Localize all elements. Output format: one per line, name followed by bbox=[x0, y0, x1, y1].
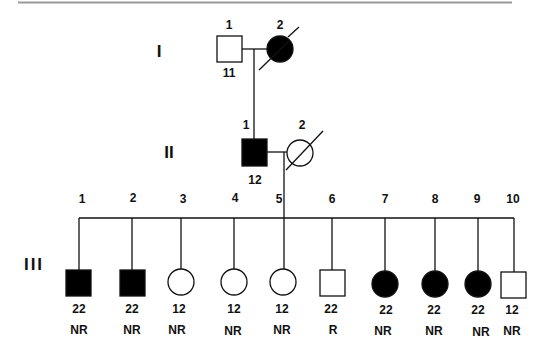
member-id-III-9: 9 bbox=[474, 192, 481, 206]
generation-label-II: II bbox=[164, 143, 173, 162]
female-symbol-III-8 bbox=[422, 271, 448, 297]
member-id-III-3: 3 bbox=[180, 192, 187, 206]
member-status-III-6: R bbox=[329, 323, 338, 337]
female-symbol-III-4 bbox=[221, 269, 247, 295]
member-value-III-9: 22 bbox=[471, 303, 485, 317]
member-value-III-6: 22 bbox=[324, 302, 338, 316]
member-id-III-8: 8 bbox=[432, 192, 439, 206]
male-symbol-III-6 bbox=[320, 270, 345, 296]
member-value-III-1: 22 bbox=[72, 302, 86, 316]
member-status-III-7: NR bbox=[374, 324, 392, 338]
male-symbol-III-1 bbox=[66, 270, 91, 296]
member-id-I-1: 1 bbox=[226, 18, 233, 32]
member-status-III-10: NR bbox=[503, 324, 521, 338]
member-value-III-10: 12 bbox=[505, 303, 519, 317]
gen-I: 1 11 2 bbox=[217, 18, 299, 139]
male-symbol-III-2 bbox=[120, 270, 145, 296]
member-status-III-8: NR bbox=[425, 324, 443, 338]
male-symbol-I-1 bbox=[217, 36, 242, 62]
gen-III: 1 22 NR 2 22 NR 3 12 NR 4 12 NR 5 12 NR … bbox=[66, 191, 526, 339]
member-value-III-8: 22 bbox=[427, 303, 441, 317]
member-id-III-7: 7 bbox=[382, 192, 389, 206]
deceased-slash-I-2-top bbox=[288, 27, 299, 37]
member-status-III-3: NR bbox=[168, 323, 186, 337]
generation-label-I: I bbox=[157, 42, 162, 61]
member-value-II-1: 12 bbox=[248, 173, 262, 187]
member-id-I-2: 2 bbox=[277, 18, 284, 32]
member-value-III-3: 12 bbox=[172, 302, 186, 316]
member-value-III-2: 22 bbox=[125, 302, 139, 316]
female-symbol-III-5 bbox=[270, 269, 296, 295]
member-status-III-9: NR bbox=[472, 325, 490, 339]
member-value-III-7: 22 bbox=[379, 303, 393, 317]
member-id-III-1: 1 bbox=[79, 192, 86, 206]
member-id-II-2: 2 bbox=[299, 118, 306, 132]
member-id-III-10: 10 bbox=[506, 192, 520, 206]
member-id-III-2: 2 bbox=[130, 191, 137, 205]
member-status-III-1: NR bbox=[70, 323, 88, 337]
member-id-II-1: 1 bbox=[243, 118, 250, 132]
member-value-III-4: 12 bbox=[227, 302, 241, 316]
member-id-III-5: 5 bbox=[276, 192, 283, 206]
generation-label-III: III bbox=[24, 255, 44, 274]
female-symbol-III-7 bbox=[372, 271, 398, 297]
member-status-III-5: NR bbox=[273, 323, 291, 337]
member-status-III-4: NR bbox=[224, 324, 242, 338]
female-symbol-III-9 bbox=[465, 271, 491, 297]
member-value-I-1: 11 bbox=[223, 66, 236, 80]
pedigree-chart: I II III 1 11 2 1 12 2 1 22 NR bbox=[0, 0, 543, 352]
female-symbol-II-2 bbox=[287, 140, 313, 166]
member-id-III-6: 6 bbox=[329, 192, 336, 206]
member-id-III-4: 4 bbox=[232, 191, 239, 205]
female-symbol-III-3 bbox=[168, 269, 194, 295]
member-value-III-5: 12 bbox=[275, 302, 289, 316]
male-symbol-III-10 bbox=[501, 272, 526, 298]
male-symbol-II-1 bbox=[242, 139, 267, 166]
member-status-III-2: NR bbox=[123, 323, 141, 337]
